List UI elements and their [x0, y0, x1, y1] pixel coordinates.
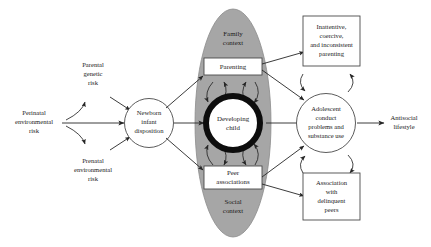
inattentive-line-1: Inattentive,: [317, 23, 347, 30]
social-context-line-2: context: [223, 207, 243, 214]
peer-associations-line-2: associations: [216, 178, 250, 185]
node-developing-child: Developing child: [206, 96, 260, 150]
node-delinquent-peers: Association with delinquent peers: [303, 173, 360, 220]
antisocial-line-2: lifestyle: [393, 123, 414, 130]
family-context-line-1: Family: [223, 30, 243, 37]
parental-genetic-line-3: risk: [88, 79, 99, 86]
newborn-disposition-line-2: infant: [141, 118, 157, 125]
inattentive-line-4: parenting: [319, 50, 345, 57]
edge-adolescent-to-delinquent: [348, 155, 353, 173]
node-parenting: Parenting: [204, 58, 262, 75]
parental-genetic-line-2: genetic: [83, 70, 102, 77]
adolescent-line-4: substance use: [308, 132, 344, 139]
node-parental-genetic-risk: Parental genetic risk: [82, 61, 104, 86]
social-context-line-1: Social: [224, 198, 241, 205]
edge-prenatal-to-newborn: [110, 137, 130, 150]
family-context-line-2: context: [223, 39, 243, 46]
delinquent-line-4: peers: [325, 206, 339, 213]
node-peer-associations: Peer associations: [204, 166, 262, 189]
antisocial-line-1: Antisocial: [390, 114, 417, 121]
perinatal-line-2: environmental: [15, 118, 53, 125]
prenatal-line-3: risk: [88, 175, 99, 182]
node-perinatal-risk: Perinatal environmental risk: [15, 109, 53, 134]
inattentive-line-3: and inconsistent: [310, 41, 353, 48]
prenatal-line-2: environmental: [74, 166, 112, 173]
prenatal-line-1: Prenatal: [82, 157, 104, 164]
node-inattentive-parenting: Inattentive, coercive, and inconsistent …: [303, 16, 360, 66]
newborn-disposition-line-1: Newborn: [137, 109, 162, 116]
delinquent-line-1: Association: [316, 179, 348, 186]
developing-child-ring: [206, 96, 260, 150]
edge-delinquent-to-adolescent: [300, 156, 305, 173]
adolescent-line-1: Adolescent: [311, 105, 341, 112]
developing-child-line-1: Developing: [217, 115, 250, 122]
delinquent-line-3: delinquent: [318, 197, 346, 204]
node-adolescent-outcomes: Adolescent conduct problems and substanc…: [297, 94, 356, 153]
perinatal-line-3: risk: [29, 127, 40, 134]
adolescent-line-2: conduct: [316, 114, 337, 121]
parental-genetic-line-1: Parental: [82, 61, 104, 68]
inattentive-line-2: coercive,: [320, 32, 344, 39]
edge-peer-to-delinquent: [262, 184, 304, 196]
edge-perinatal-to-parental-genetic: [66, 102, 85, 120]
delinquent-line-2: with: [326, 188, 338, 195]
node-prenatal-risk: Prenatal environmental risk: [74, 157, 112, 182]
newborn-disposition-line-3: disposition: [135, 127, 165, 134]
edge-parental-genetic-to-newborn: [110, 97, 130, 110]
developmental-pathway-diagram: Newborn infant disposition: [0, 0, 431, 247]
developing-child-line-2: child: [226, 124, 240, 131]
edge-perinatal-to-prenatal: [66, 126, 85, 144]
adolescent-line-3: problems and: [308, 123, 344, 130]
edges-left: [62, 97, 130, 150]
edge-parenting-to-inattentive: [262, 52, 304, 64]
edge-adolescent-to-inattentive: [348, 74, 353, 92]
node-newborn-disposition: Newborn infant disposition: [125, 99, 174, 148]
perinatal-line-1: Perinatal: [22, 109, 46, 116]
peer-associations-line-1: Peer: [227, 169, 240, 176]
edge-inattentive-to-adolescent: [300, 74, 305, 91]
node-antisocial-lifestyle: Antisocial lifestyle: [390, 114, 417, 130]
diagram-canvas: Newborn infant disposition: [0, 0, 431, 247]
parenting-label: Parenting: [220, 63, 247, 70]
